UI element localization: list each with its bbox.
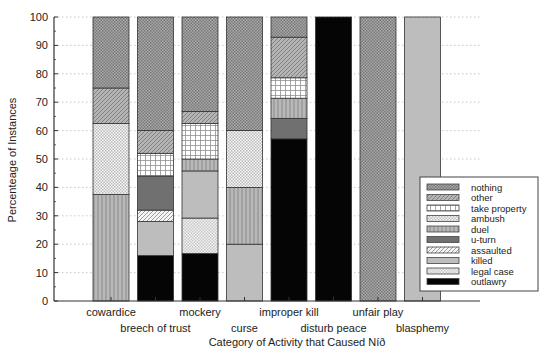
bar-segment-ambush [227,131,263,188]
bar-segment-killed [138,221,174,255]
bar-segment-duel [227,187,263,244]
x-tick-label: disturb peace [300,322,366,334]
stacked-bar-chart: 0102030405060708090100 cowardicebreech o… [0,0,540,358]
y-tick-label: 90 [36,39,48,51]
bar-segment-u-turn [138,176,174,210]
legend-swatch [427,195,459,201]
y-tick-label: 80 [36,68,48,80]
bar-segment-ambush [93,124,129,195]
y-tick-label: 0 [42,295,48,307]
bar-segment-outlawry [138,256,174,301]
y-tick-label: 20 [36,238,48,250]
y-tick-label: 40 [36,181,48,193]
bar-unfair-play [360,17,396,301]
legend-label: outlawry [471,276,507,287]
bar-segment-nothing [182,17,218,112]
legend-label: u-turn [471,234,496,245]
legend-swatch [427,226,459,232]
bar-segment-duel [271,98,307,118]
bar-segment-legal-case [182,218,218,254]
y-tick-label: 60 [36,125,48,137]
y-tick-label: 70 [36,96,48,108]
legend: nothingothertake propertyambushduelu-tur… [420,177,538,291]
legend-swatch [427,216,459,222]
bar-segment-nothing [138,17,174,131]
bar-segment-nothing [93,17,129,88]
bar-mockery [182,17,218,301]
legend-label: other [471,192,493,203]
x-tick-label: curse [231,322,258,334]
legend-swatch [427,237,459,243]
bar-segment-outlawry [316,17,352,301]
legend-label: legal case [471,266,514,277]
bar-segment-take-property [138,153,174,176]
y-tick-label: 50 [36,153,48,165]
y-tick-label: 30 [36,210,48,222]
bar-segment-nothing [227,17,263,131]
y-tick-label: 100 [30,11,48,23]
y-tick-label: 10 [36,267,48,279]
bar-segment-killed [182,171,218,218]
x-tick-label: cowardice [86,306,136,318]
bar-segment-assaulted [138,210,174,221]
bar-segment-u-turn [271,118,307,138]
bar-curse [227,17,263,301]
legend-label: take property [471,203,527,214]
bar-segment-killed [227,244,263,301]
bar-segment-nothing [271,17,307,37]
y-axis-title: Percenteage of Instances [6,97,18,222]
bar-segment-nothing [360,17,396,301]
legend-swatch [427,279,459,285]
bar-segment-other [182,112,218,124]
bar-breech-of-trust [138,17,174,301]
legend-label: duel [471,224,489,235]
bar-segment-other [93,88,129,124]
x-axis-title: Category of Activity that Caused Níð [209,336,386,348]
bar-segment-take-property [271,78,307,98]
bar-cowardice [93,17,129,301]
x-tick-labels: cowardicebreech of trustmockerycurseimpr… [86,306,449,334]
bar-improper-kill [271,17,307,301]
legend-label: killed [471,255,493,266]
y-tick-labels: 0102030405060708090100 [30,11,48,307]
legend-swatch [427,268,459,274]
legend-swatch [427,258,459,264]
legend-label: ambush [471,213,505,224]
bar-segment-take-property [182,124,218,160]
legend-label: assaulted [471,245,512,256]
x-tick-label: unfair play [353,306,404,318]
legend-swatch [427,247,459,253]
bar-segment-duel [182,159,218,171]
x-tick-label: blasphemy [396,322,450,334]
legend-swatch [427,184,459,190]
x-tick-label: improper kill [259,306,318,318]
x-tick-label: mockery [179,306,221,318]
x-tick-label: breech of trust [120,322,190,334]
bar-disturb-peace [316,17,352,301]
bar-segment-duel [93,195,129,302]
bar-segment-outlawry [182,254,218,301]
bar-segment-other [138,131,174,154]
bar-segment-outlawry [271,139,307,301]
bar-segment-other [271,37,307,78]
legend-label: nothing [471,182,502,193]
legend-swatch [427,205,459,211]
